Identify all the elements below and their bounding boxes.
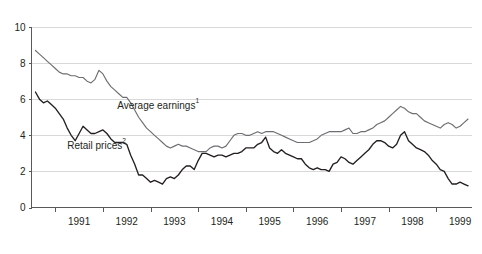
x-tick-label: 1997 <box>354 216 377 227</box>
x-tick-label: 1995 <box>258 216 281 227</box>
y-tick-label: 2 <box>20 166 26 177</box>
line-chart: 0246810 19911992199319941995199619971998… <box>0 0 482 254</box>
x-axis-labels: 199119921993199419951996199719981999 <box>68 216 472 227</box>
y-tick-label: 0 <box>20 202 26 213</box>
chart-container: 0246810 19911992199319941995199619971998… <box>0 0 482 254</box>
x-tick-label: 1998 <box>401 216 424 227</box>
y-tick-label: 8 <box>20 58 26 69</box>
x-tick-label: 1994 <box>211 216 234 227</box>
x-tick-label: 1992 <box>116 216 139 227</box>
x-tick-label: 1999 <box>449 216 472 227</box>
x-tick-label: 1993 <box>163 216 186 227</box>
y-tick-label: 6 <box>20 94 26 105</box>
y-tick-label: 10 <box>14 22 26 33</box>
x-tick-label: 1996 <box>306 216 329 227</box>
y-tick-label: 4 <box>20 130 26 141</box>
x-tick-label: 1991 <box>68 216 91 227</box>
